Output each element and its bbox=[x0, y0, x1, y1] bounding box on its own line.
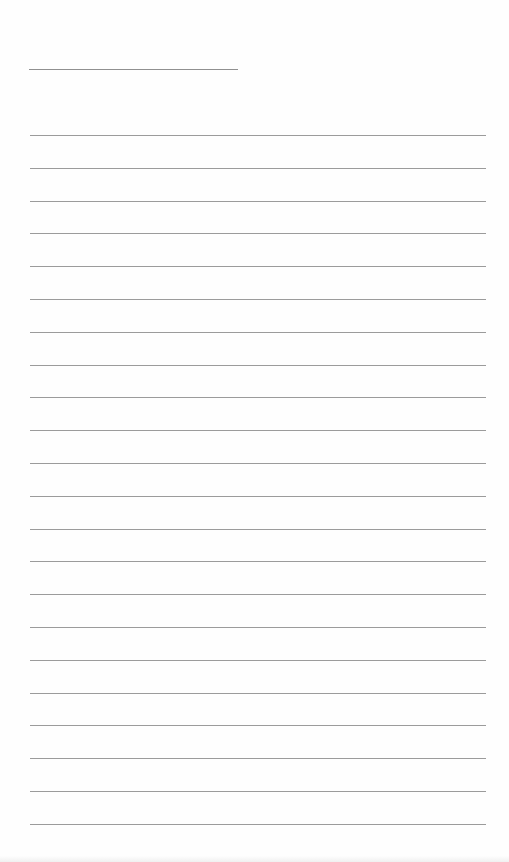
page-bottom-edge bbox=[0, 856, 509, 862]
writing-line bbox=[30, 332, 486, 333]
writing-line bbox=[30, 594, 486, 595]
writing-line bbox=[30, 561, 486, 562]
title-line bbox=[29, 69, 238, 70]
writing-line bbox=[30, 725, 486, 726]
writing-line bbox=[30, 430, 486, 431]
writing-line bbox=[30, 135, 486, 136]
writing-line bbox=[30, 693, 486, 694]
writing-line bbox=[30, 365, 486, 366]
writing-line bbox=[30, 758, 486, 759]
writing-line bbox=[30, 463, 486, 464]
writing-line bbox=[30, 660, 486, 661]
writing-line bbox=[30, 627, 486, 628]
writing-line bbox=[30, 168, 486, 169]
writing-line bbox=[30, 496, 486, 497]
writing-line bbox=[30, 299, 486, 300]
writing-line bbox=[30, 824, 486, 825]
writing-line bbox=[30, 233, 486, 234]
writing-line bbox=[30, 266, 486, 267]
writing-line bbox=[30, 397, 486, 398]
writing-line bbox=[30, 529, 486, 530]
writing-line bbox=[30, 201, 486, 202]
writing-line bbox=[30, 791, 486, 792]
lined-paper-page bbox=[0, 0, 509, 862]
